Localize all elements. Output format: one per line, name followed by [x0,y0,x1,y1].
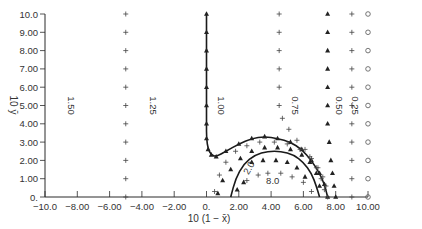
plus-marker [309,189,314,194]
x-tick-label: −4.00 [130,201,154,212]
plus-marker [349,140,354,145]
y-tick-label: 10.0 [20,9,39,20]
y-tick-label: 4.00 [20,118,39,129]
y-tick-label: 6.00 [20,82,39,93]
series-line [231,151,320,197]
triangle-marker [325,11,330,16]
x-tick-label: 4.00 [262,201,281,212]
triangle-marker [204,30,209,35]
triangle-marker [204,84,209,89]
triangle-marker [328,158,333,163]
y-tick-label: 8.00 [20,45,39,56]
plus-marker [244,143,249,148]
plus-marker [277,66,282,71]
plus-marker [277,12,282,17]
plus-marker [123,48,128,53]
x-tick-label: 6.00 [294,201,313,212]
x-tick-label: −8.00 [65,201,89,212]
plus-marker [256,173,261,178]
y-axis-label: 10 ȳ [8,96,19,115]
plus-marker [233,149,238,154]
plus-marker [349,30,354,35]
plus-marker [349,66,354,71]
triangle-marker [204,103,209,108]
triangle-marker [204,121,209,126]
triangle-marker [204,48,209,53]
triangle-marker [299,152,304,157]
triangle-marker [204,66,209,71]
circle-marker [366,48,371,53]
x-tick-label: −2.00 [162,201,186,212]
plus-marker [277,85,282,90]
x-tick-label: 10.00 [356,201,380,212]
x-tick-label: 2.00 [230,201,249,212]
plus-marker [349,195,354,200]
plus-marker [277,48,282,53]
curve-label: 2.0 [241,159,257,176]
triangle-marker [288,147,293,152]
triangle-marker [273,158,278,163]
triangle-marker [206,147,211,152]
plus-marker [349,85,354,90]
curve-label: 0.50 [334,96,345,115]
triangle-marker [303,174,308,179]
plus-marker [294,138,299,143]
triangle-marker [332,183,337,188]
plus-marker [123,66,128,71]
plus-marker [123,103,128,108]
y-tick-label: 0. [30,192,38,203]
y-tick-label: 7.00 [20,63,39,74]
y-tick-label: 5.00 [20,100,39,111]
triangle-marker [294,165,299,170]
triangle-marker [325,103,330,108]
plus-marker [290,174,295,179]
curve-label: 0.25 [350,96,361,115]
triangle-marker [330,170,335,175]
triangle-marker [275,145,280,150]
triangle-marker [325,30,330,35]
triangle-marker [235,187,240,192]
triangle-marker [204,11,209,16]
plus-marker [349,158,354,163]
triangle-marker [325,84,330,89]
plus-marker [123,12,128,17]
x-tick-label: −10.0 [33,201,57,212]
plus-marker [123,140,128,145]
triangle-marker [325,48,330,53]
circle-marker [366,122,371,127]
triangle-marker [228,167,233,172]
x-tick-label: 8.00 [326,201,345,212]
plus-marker [123,195,128,200]
y-tick-label: 9.00 [20,27,39,38]
x-tick-label: 0. [203,201,211,212]
curve-label: 1.00 [216,96,227,115]
circle-marker [366,140,371,145]
plus-marker [212,189,217,194]
circle-marker [366,12,371,17]
triangle-marker [325,66,330,71]
circle-marker [366,103,371,108]
plus-marker [349,176,354,181]
plus-marker [217,173,222,178]
chart-canvas: −10.0−8.00−6.00−4.00−2.000.2.004.006.008… [0,0,422,229]
x-axis-label: 10 (1 − x̄) [188,213,231,224]
plus-marker [123,158,128,163]
y-tick-label: 1.00 [20,173,39,184]
triangle-marker [285,159,290,164]
triangle-marker [204,136,209,141]
curve-label: 8.0 [266,175,279,186]
circle-marker [366,67,371,72]
plus-marker [286,127,291,132]
plus-marker [123,176,128,181]
plus-marker [123,121,128,126]
circle-marker [366,30,371,35]
x-tick-label: −6.00 [98,201,122,212]
plus-marker [301,180,306,185]
plus-marker [277,103,282,108]
circle-marker [366,176,371,181]
plus-marker [277,30,282,35]
triangle-marker [327,139,332,144]
y-tick-label: 3.00 [20,137,39,148]
plus-marker [123,30,128,35]
plus-marker [272,140,277,145]
